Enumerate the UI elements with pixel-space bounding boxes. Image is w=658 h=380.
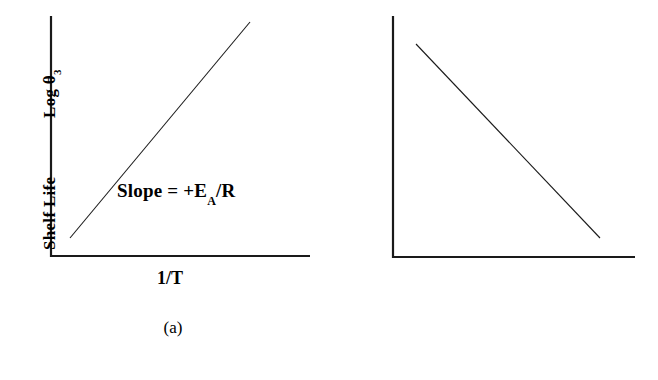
x-axis-label-a: 1/T (110, 268, 230, 289)
y-axis-label-log-text-a: Log (40, 89, 59, 118)
panel-b: Log θ3 Shelf Life Slope = b = 1n Q10 10 … (329, 0, 658, 380)
figure-canvas: Log θ3 Shelf Life Slope = +EA/R 1/T (a) … (0, 0, 658, 380)
data-line-b (416, 44, 600, 238)
y-axis-label-shelf-life-a: Shelf Life (40, 177, 60, 250)
theta-symbol-a: θ (40, 75, 59, 84)
slope-annotation-a: Slope = +EA/R (117, 180, 235, 206)
plot-area-b (329, 0, 658, 380)
slope-annotation-lead-a: Slope = +E (117, 180, 207, 201)
y-axis-label-log-a: Log θ3 (40, 69, 61, 118)
panel-a: Log θ3 Shelf Life Slope = +EA/R 1/T (a) (0, 0, 329, 380)
slope-annotation-subscript-a: A (207, 194, 216, 208)
slope-annotation-tail-a: /R (216, 180, 235, 201)
theta-subscript-a: 3 (51, 69, 63, 75)
panel-caption-a: (a) (113, 318, 233, 338)
